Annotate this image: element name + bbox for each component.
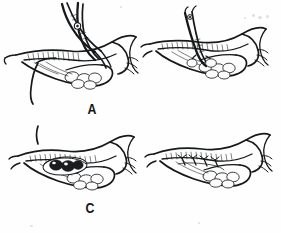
panel-a-suture-thread (4, 58, 56, 104)
panel-a-drawing (0, 0, 140, 104)
panel-d: D (140, 104, 281, 234)
panel-c-incision-with-stones (42, 155, 87, 176)
panel-b: B (140, 0, 281, 104)
panel-c-label: C (82, 200, 98, 215)
panel-c-thread-fragment (37, 126, 39, 144)
panel-a-organ (5, 36, 138, 90)
panel-b-drawing (140, 0, 281, 104)
panel-b-straight-scissors (185, 6, 216, 67)
panel-c-stone-1 (50, 160, 63, 170)
panel-b-organ (141, 28, 268, 80)
panel-a: A (0, 0, 140, 104)
panel-c-drawing (0, 104, 140, 234)
panel-c-stone-3 (73, 161, 83, 170)
panel-d-organ (145, 134, 272, 189)
panel-d-striations (166, 152, 232, 161)
panel-d-drawing (140, 104, 281, 234)
panel-c: C (0, 104, 140, 234)
panel-a-fundus-lobules (64, 71, 101, 90)
figure-plate: A (0, 0, 281, 234)
suture-2 (189, 155, 197, 165)
